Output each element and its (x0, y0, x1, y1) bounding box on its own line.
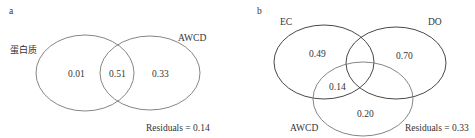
residuals-label: Residuals = 0.33 (405, 123, 469, 133)
panel-a-tag: a (9, 6, 14, 16)
set-label-awcd: AWCD (178, 33, 206, 43)
region-value-overlap: 0.51 (109, 69, 126, 79)
region-value-ec-only: 0.49 (309, 49, 326, 59)
region-value-ec-awcd: 0.14 (329, 82, 346, 92)
panel-b: b EC DO AWCD 0.49 0.70 0.14 0.20 Residua… (257, 6, 469, 136)
panel-b-tag: b (257, 6, 262, 16)
region-value-do-only: 0.70 (396, 51, 413, 61)
set-label-awcd: AWCD (290, 123, 318, 133)
set-label-ec: EC (280, 17, 292, 27)
panel-a: a 蛋白质 AWCD 0.01 0.51 0.33 Residuals = 0.… (9, 6, 210, 133)
set-circle-do (346, 27, 446, 99)
set-label-do: DO (428, 17, 442, 27)
set-label-protein: 蛋白质 (10, 44, 37, 55)
residuals-label: Residuals = 0.14 (146, 123, 210, 133)
region-value-protein-only: 0.01 (68, 69, 85, 79)
region-value-awcd-only: 0.33 (152, 69, 169, 79)
venn-figure: a 蛋白质 AWCD 0.01 0.51 0.33 Residuals = 0.… (0, 0, 475, 138)
region-value-awcd-only: 0.20 (357, 109, 374, 119)
